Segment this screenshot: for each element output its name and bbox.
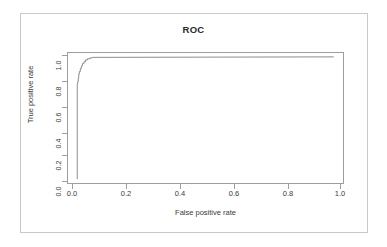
figure-canvas: ROC True positive rate False positive ra… (0, 0, 387, 247)
y-tick-label: 0.4 (55, 133, 62, 155)
y-tick-label: 0.6 (55, 107, 62, 129)
page-title: ROC (0, 24, 387, 35)
roc-curve-plot (67, 52, 344, 184)
y-tick-label: 0.8 (55, 81, 62, 103)
x-tick-label: 0.0 (60, 189, 84, 198)
x-tick-label: 0.2 (114, 189, 138, 198)
roc-curve-line (77, 57, 333, 179)
x-axis-title: False positive rate (67, 208, 344, 217)
x-tick-label: 1.0 (328, 189, 352, 198)
y-axis-title: True positive rate (26, 40, 35, 150)
x-tick-label: 0.4 (168, 189, 192, 198)
y-tick-label: 1.0 (55, 55, 62, 77)
y-tick-label: 0.2 (55, 155, 62, 177)
x-tick-label: 0.8 (276, 189, 300, 198)
x-tick-label: 0.6 (222, 189, 246, 198)
